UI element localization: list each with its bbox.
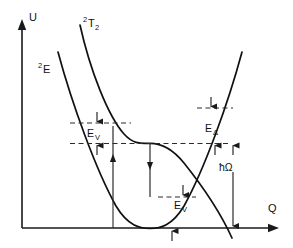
emission-arrow-head: [147, 162, 153, 170]
E-delta-label-subscript: Δ: [213, 128, 218, 137]
measure-hbar-omega: ħΩ: [219, 146, 233, 227]
figure-container: U Q 2 E 2 T 2 E: [0, 0, 293, 248]
term-label-2E: 2 E: [38, 61, 50, 75]
x-axis-label: Q: [268, 202, 277, 214]
EV-upper-label: E: [87, 127, 94, 139]
configuration-coordinate-diagram: U Q 2 E 2 T 2 E: [0, 0, 293, 248]
term-2T2-subscript: 2: [95, 23, 99, 32]
term-2T2-superscript: 2: [83, 15, 87, 24]
transition-emission: [147, 143, 153, 197]
transition-absorption: [110, 126, 116, 205]
measure-EV-lower: E V: [174, 185, 187, 214]
EV-lower-label: E: [174, 199, 181, 211]
axis-group: [18, 19, 279, 232]
E-delta-label: E: [205, 122, 212, 134]
EV-upper-label-subscript: V: [95, 133, 100, 142]
term-2E-letter: E: [43, 63, 50, 75]
y-axis-arrowhead: [18, 19, 26, 30]
term-2T2-letter: T: [88, 17, 95, 29]
curve-ground-state-2E: [58, 52, 242, 229]
term-2E-superscript: 2: [38, 61, 42, 70]
term-label-2T2: 2 T 2: [83, 15, 99, 32]
EV-lower-label-subscript: V: [182, 205, 187, 214]
hbar-omega-label: ħΩ: [219, 161, 233, 173]
x-axis-arrowhead: [268, 224, 279, 233]
y-axis-label: U: [29, 11, 37, 23]
absorption-arrow-head: [110, 154, 116, 162]
measure-EV-upper: E V: [87, 112, 100, 155]
